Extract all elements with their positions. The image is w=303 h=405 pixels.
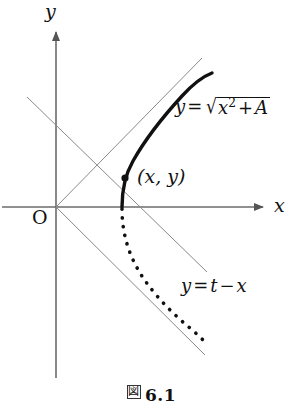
radicand: x2+A: [217, 97, 270, 117]
tangency-point-marker: [121, 174, 128, 181]
line-label-equals: =: [191, 277, 210, 295]
line-equation-label: y = t−x: [181, 277, 247, 295]
line-label-y: y: [181, 277, 191, 295]
line-label-minus: −: [218, 277, 237, 295]
curve-label-y: y: [175, 98, 185, 116]
caption-number: 6.1: [145, 385, 176, 405]
y-axis-label: y: [45, 2, 56, 21]
radicand-base: x: [218, 97, 228, 118]
figure-container: y x O (x, y) y = √ x2+A y = t−x 図6.1: [0, 0, 303, 405]
origin-label: O: [32, 208, 48, 227]
line-label-t: t: [210, 277, 217, 295]
figure-caption: 図6.1: [0, 385, 303, 405]
x-axis-label: x: [274, 196, 285, 215]
caption-symbol-box: 図: [127, 385, 141, 399]
hyperbola-plot: [0, 0, 303, 405]
radicand-exponent: 2: [228, 96, 236, 110]
radicand-plus: +: [236, 97, 255, 118]
point-coordinate-label: (x, y): [137, 167, 185, 186]
line-label-x: x: [237, 277, 247, 295]
radical-sign: √: [206, 97, 217, 117]
square-root-icon: √ x2+A: [205, 97, 270, 117]
radicand-constant: A: [255, 97, 268, 118]
curve-label-equals: =: [185, 98, 204, 116]
curve-equation-label: y = √ x2+A: [175, 97, 270, 117]
